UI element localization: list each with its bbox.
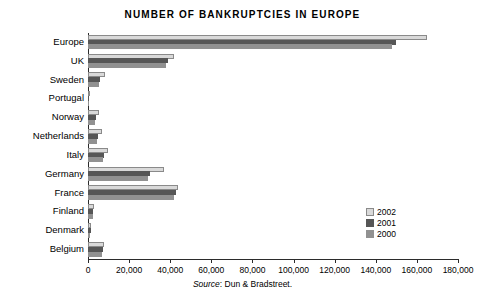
category-label-germany: Germany	[0, 168, 84, 179]
bankruptcies-bar-chart: NUMBER OF BANKRUPTCIES IN EUROPE EuropeU…	[0, 0, 485, 300]
x-tick-20000	[129, 259, 130, 263]
x-tick-140000	[376, 259, 377, 263]
category-label-netherlands: Netherlands	[0, 130, 84, 141]
bar-france-2000	[88, 195, 174, 200]
x-tick-40000	[170, 259, 171, 263]
source-value: : Dun & Bradstreet.	[220, 279, 292, 289]
legend-label-2002: 2002	[377, 208, 396, 217]
legend-label-2001: 2001	[377, 219, 396, 228]
legend-item-2001: 2001	[366, 218, 396, 228]
bar-germany-2000	[88, 176, 148, 181]
bar-netherlands-2000	[88, 139, 97, 144]
category-label-finland: Finland	[0, 205, 84, 216]
category-label-denmark: Denmark	[0, 224, 84, 235]
source-note: Source: Dun & Bradstreet.	[0, 279, 485, 289]
x-tick-0	[88, 259, 89, 263]
category-label-sweden: Sweden	[0, 74, 84, 85]
x-tick-label-180000: 180,000	[443, 265, 474, 275]
x-tick-label-160000: 160,000	[402, 265, 433, 275]
bar-finland-2000	[88, 214, 93, 219]
category-label-europe: Europe	[0, 36, 84, 47]
bar-sweden-2000	[88, 82, 99, 87]
bar-belgium-2000	[88, 252, 102, 257]
category-label-france: France	[0, 187, 84, 198]
bar-norway-2000	[88, 120, 95, 125]
x-tick-label-120000: 120,000	[319, 265, 350, 275]
bar-denmark-2000	[88, 233, 90, 238]
x-tick-120000	[335, 259, 336, 263]
x-tick-label-60000: 60,000	[198, 265, 224, 275]
x-tick-80000	[252, 259, 253, 263]
x-tick-label-140000: 140,000	[360, 265, 391, 275]
x-tick-100000	[294, 259, 295, 263]
x-tick-60000	[211, 259, 212, 263]
category-label-norway: Norway	[0, 111, 84, 122]
bar-europe-2000	[88, 44, 392, 49]
bar-uk-2000	[88, 63, 166, 68]
legend: 200220012000	[366, 207, 396, 240]
chart-title: NUMBER OF BANKRUPTCIES IN EUROPE	[0, 9, 485, 20]
legend-swatch-2002	[366, 208, 374, 216]
x-tick-180000	[458, 259, 459, 263]
x-tick-label-20000: 20,000	[116, 265, 142, 275]
x-tick-label-100000: 100,000	[278, 265, 309, 275]
bar-italy-2000	[88, 157, 103, 162]
category-label-italy: Italy	[0, 149, 84, 160]
category-label-portugal: Portugal	[0, 92, 84, 103]
x-tick-label-0: 0	[86, 265, 91, 275]
legend-swatch-2001	[366, 219, 374, 227]
category-label-uk: UK	[0, 55, 84, 66]
legend-item-2002: 2002	[366, 207, 396, 217]
source-label: Source	[193, 279, 220, 289]
legend-item-2000: 2000	[366, 229, 396, 239]
x-tick-label-80000: 80,000	[239, 265, 265, 275]
bar-portugal-2000	[88, 101, 89, 106]
legend-label-2000: 2000	[377, 230, 396, 239]
category-label-belgium: Belgium	[0, 243, 84, 254]
x-tick-label-40000: 40,000	[157, 265, 183, 275]
x-tick-160000	[417, 259, 418, 263]
x-axis-line	[88, 259, 459, 260]
legend-swatch-2000	[366, 230, 374, 238]
